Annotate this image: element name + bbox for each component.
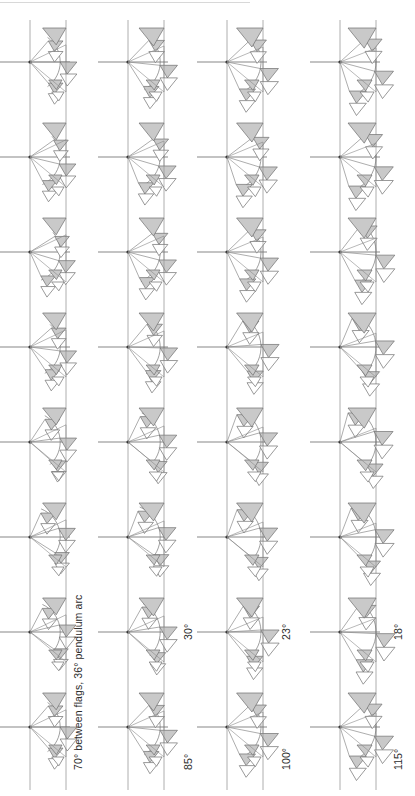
flag-pennant: [160, 78, 177, 91]
pendulum-rod: [30, 41, 48, 62]
flag-pennant: [51, 339, 66, 350]
flag-pennant: [375, 355, 394, 369]
flag-pennant: [349, 768, 366, 780]
figure: [0, 598, 76, 671]
flag-pennant: [41, 524, 56, 535]
flag-pennant: [158, 540, 175, 553]
flag-pennant: [158, 528, 175, 541]
flag-pennant: [261, 358, 279, 371]
flag-pennant: [43, 218, 66, 235]
flag-pennant: [59, 540, 76, 552]
diagram-root: [0, 20, 395, 790]
pendulum-rod: [30, 513, 41, 537]
pendulum-rod: [30, 62, 48, 83]
flag-pennant: [239, 766, 255, 778]
flag-pennant: [55, 236, 70, 247]
column-2-label-primary: 85°: [182, 754, 194, 770]
flag-pennant: [349, 198, 366, 210]
pendulum-rod: [30, 140, 54, 157]
pendulum-rod: [227, 230, 250, 252]
pendulum-rod: [128, 62, 143, 86]
flag-pennant: [42, 191, 57, 202]
figure: [98, 313, 178, 393]
pendulum-rod: [128, 40, 149, 62]
flag-pennant: [149, 52, 164, 63]
flag-pennant: [260, 541, 278, 554]
flag-pennant: [160, 627, 177, 640]
pendulum-rod: [340, 62, 349, 91]
figure: [310, 408, 393, 488]
pendulum-rod: [340, 508, 351, 537]
figure: [98, 408, 177, 484]
flag-pennant: [237, 313, 263, 332]
flag-pennant: [160, 743, 177, 756]
flag-pennant: [364, 573, 381, 585]
flag-pennant: [357, 650, 372, 661]
flag-pennant: [43, 123, 66, 140]
flag-pennant: [43, 28, 66, 45]
pendulum-rod: [340, 727, 349, 756]
flag-pennant: [357, 175, 372, 186]
flag-pennant: [59, 164, 76, 176]
pendulum-rod: [340, 318, 352, 347]
flag-pennant: [248, 187, 261, 197]
column-4: [310, 20, 395, 790]
pendulum-rod: [128, 139, 153, 157]
figure: [0, 313, 77, 391]
flag-pennant: [355, 292, 372, 304]
flag-pennant: [43, 313, 66, 330]
pendulum-rod: [128, 157, 138, 183]
pendulum-rod: [227, 252, 240, 279]
flag-pennant: [152, 244, 167, 255]
flag-pennant: [48, 717, 63, 728]
flag-pennant: [259, 180, 277, 193]
flag-pennant: [160, 640, 177, 653]
flag-pennant: [360, 187, 374, 197]
pendulum-rod: [340, 605, 359, 632]
pendulum-rod: [227, 137, 253, 157]
diagram-canvas: [0, 0, 415, 796]
pendulum-rod: [30, 252, 59, 261]
flag-pennant: [43, 693, 66, 710]
flag-pennant: [159, 260, 176, 273]
column-2-label-secondary: 30°: [182, 624, 194, 640]
flag-pennant: [349, 103, 366, 115]
flag-pennant: [60, 351, 77, 363]
figure: [0, 693, 77, 769]
figure: [0, 408, 77, 482]
pendulum-rod: [30, 625, 59, 632]
flag-pennant: [360, 757, 374, 767]
figure: [197, 408, 278, 486]
flag-pennant: [376, 269, 395, 283]
flag-pennant: [139, 123, 164, 141]
flag-pennant: [248, 757, 261, 767]
figure: [310, 28, 394, 116]
pendulum-rod: [340, 157, 374, 167]
flag-pennant: [376, 255, 395, 269]
flag-pennant: [375, 341, 394, 355]
figure: [0, 503, 75, 576]
flag-pennant: [375, 750, 394, 764]
figure-sheet: 70° between flags, 36° pendulum arc 85° …: [0, 0, 415, 796]
pendulum-rod: [128, 607, 142, 632]
flag-pennant: [360, 92, 374, 102]
pendulum-rod: [30, 252, 41, 276]
flag-pennant: [48, 52, 63, 63]
flag-pennant: [260, 528, 278, 541]
flag-pennant: [60, 74, 77, 86]
flag-pennant: [41, 287, 56, 298]
pendulum-rod: [30, 537, 55, 553]
flag-pennant: [375, 530, 394, 544]
pendulum-rod: [128, 435, 159, 442]
pendulum-rod: [128, 347, 145, 371]
pendulum-rod: [128, 705, 149, 727]
flag-pennant: [160, 361, 177, 374]
pendulum-rod: [227, 727, 260, 734]
column-1: [0, 20, 77, 790]
flag-pennant: [261, 344, 279, 357]
flag-pennant: [259, 433, 277, 446]
flag-pennant: [152, 233, 167, 244]
figure: [197, 123, 277, 208]
pendulum-rod: [128, 417, 140, 442]
figure: [310, 503, 394, 586]
